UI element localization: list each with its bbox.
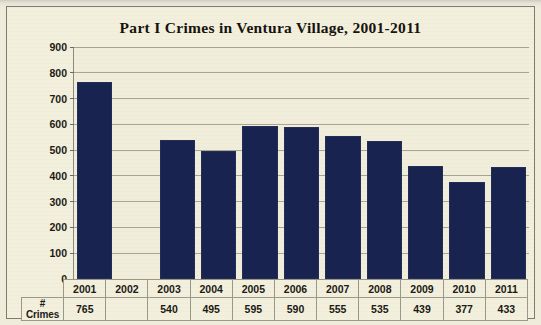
chart-screenshot: Part I Crimes in Ventura Village, 2001-2…	[0, 0, 541, 325]
y-axis-label-900: 900	[49, 41, 67, 53]
chart-title: Part I Crimes in Ventura Village, 2001-2…	[7, 19, 534, 37]
bar-2003	[160, 140, 195, 279]
bar-2008	[367, 141, 402, 279]
y-axis-label-200: 200	[49, 221, 67, 233]
table-header-2003: 2003	[148, 280, 190, 298]
table-value-2011: 433	[485, 298, 527, 321]
y-axis-label-500: 500	[49, 144, 67, 156]
y-tick-500	[70, 150, 74, 151]
table-header-2008: 2008	[359, 280, 401, 298]
table-header-2007: 2007	[317, 280, 359, 298]
chart-frame: Part I Crimes in Ventura Village, 2001-2…	[6, 6, 535, 319]
table-value-2001: 765	[64, 298, 106, 321]
y-axis-label-800: 800	[49, 67, 67, 79]
bar-2004	[201, 151, 236, 279]
bar-2009	[408, 166, 443, 279]
y-tick-800	[70, 72, 74, 73]
table-row-years: 2001200220032004200520062007200820092010…	[22, 280, 528, 298]
y-tick-300	[70, 201, 74, 202]
table-value-2002	[106, 298, 148, 321]
table-value-2010: 377	[443, 298, 485, 321]
table-header-2005: 2005	[232, 280, 274, 298]
table-row-label: # Crimes	[22, 298, 64, 321]
data-table: 2001200220032004200520062007200820092010…	[21, 279, 528, 321]
bar-2010	[449, 182, 484, 279]
y-axis-label-300: 300	[49, 196, 67, 208]
table-value-2009: 439	[401, 298, 443, 321]
table-value-2008: 535	[359, 298, 401, 321]
table-header-2011: 2011	[485, 280, 527, 298]
y-tick-400	[70, 175, 74, 176]
chart-canvas: Part I Crimes in Ventura Village, 2001-2…	[7, 7, 534, 318]
gridline-600	[74, 124, 529, 125]
y-axis-label-600: 600	[49, 118, 67, 130]
table-value-2007: 555	[317, 298, 359, 321]
y-tick-200	[70, 227, 74, 228]
table-value-2006: 590	[274, 298, 316, 321]
table-value-2003: 540	[148, 298, 190, 321]
bar-2007	[325, 136, 360, 279]
table-value-2005: 595	[232, 298, 274, 321]
table-header-2001: 2001	[64, 280, 106, 298]
y-axis-label-400: 400	[49, 170, 67, 182]
bar-2006	[284, 127, 319, 279]
table-header-2010: 2010	[443, 280, 485, 298]
y-tick-100	[70, 253, 74, 254]
y-tick-900	[70, 47, 74, 48]
bar-2011	[491, 167, 526, 279]
table-header-2002: 2002	[106, 280, 148, 298]
y-axis-label-100: 100	[49, 247, 67, 259]
bar-2005	[242, 126, 277, 279]
gridline-700	[74, 98, 529, 99]
gridline-800	[74, 72, 529, 73]
table-header-2009: 2009	[401, 280, 443, 298]
y-tick-700	[70, 98, 74, 99]
table-corner-cell	[22, 280, 64, 298]
table-header-2006: 2006	[274, 280, 316, 298]
table-row-values: # Crimes 765540495595590555535439377433	[22, 298, 528, 321]
table-value-2004: 495	[190, 298, 232, 321]
gridline-900	[74, 47, 529, 48]
y-tick-600	[70, 124, 74, 125]
plot-area: 0100200300400500600700800900	[73, 47, 529, 279]
table-header-2004: 2004	[190, 280, 232, 298]
y-axis-label-700: 700	[49, 93, 67, 105]
bar-2001	[77, 82, 112, 279]
